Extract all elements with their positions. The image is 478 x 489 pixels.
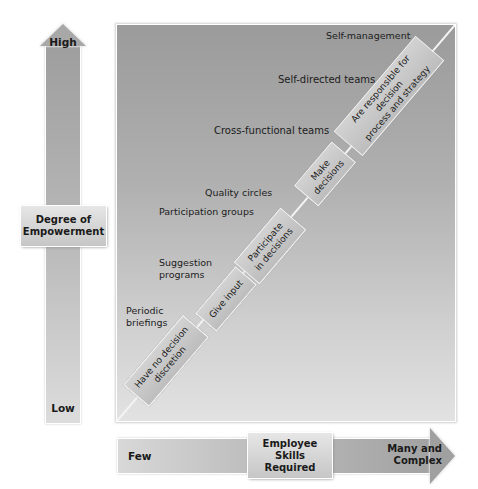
program-label-participation-groups: Participation groups bbox=[159, 206, 254, 218]
program-label-cross-functional-teams: Cross-functional teams bbox=[214, 125, 329, 137]
empowerment-high-label: High bbox=[46, 36, 80, 48]
empowerment-title-line1: Degree of bbox=[36, 214, 91, 226]
program-label-text: Quality circles bbox=[205, 187, 272, 198]
program-label-line2: briefings bbox=[126, 317, 167, 329]
program-label-line1: Periodic bbox=[126, 305, 167, 317]
program-label-text: Self-directed teams bbox=[278, 74, 375, 85]
program-label-line2: programs bbox=[159, 269, 212, 281]
skills-title-line1: Employee bbox=[263, 438, 318, 450]
skills-many-label: Many and Complex bbox=[382, 443, 442, 467]
skills-title-line2: Skills Required bbox=[248, 450, 332, 474]
empowerment-axis-title: Degree of Empowerment bbox=[21, 206, 106, 246]
skills-many-line1: Many and bbox=[382, 443, 442, 455]
program-label-self-management: Self-management bbox=[326, 30, 410, 42]
skills-many-line2: Complex bbox=[382, 455, 442, 467]
program-label-line1: Suggestion bbox=[159, 257, 212, 269]
program-label-text: Self-management bbox=[326, 30, 410, 41]
program-label-text: Cross-functional teams bbox=[214, 125, 329, 136]
program-label-self-directed-teams: Self-directed teams bbox=[278, 74, 375, 86]
program-label-quality-circles: Quality circles bbox=[205, 187, 272, 199]
skills-few-label: Few bbox=[128, 450, 152, 462]
empowerment-title-line2: Empowerment bbox=[23, 226, 104, 238]
empowerment-low-label: Low bbox=[46, 402, 80, 414]
skills-axis-title: Employee Skills Required bbox=[248, 433, 332, 478]
program-label-text: Participation groups bbox=[159, 206, 254, 217]
program-label-periodic-briefings: Periodic briefings bbox=[126, 305, 167, 329]
program-label-suggestion-programs: Suggestion programs bbox=[159, 257, 212, 281]
